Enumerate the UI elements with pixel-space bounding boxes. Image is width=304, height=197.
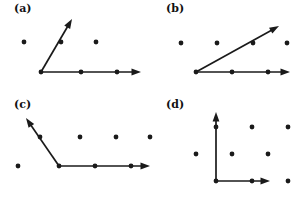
lattice-dot	[214, 125, 219, 130]
lattice-dot	[39, 70, 44, 75]
lattice-dot	[38, 135, 43, 140]
panel-a-canvas	[0, 0, 152, 98]
panel-b-canvas	[152, 0, 304, 98]
lattice-dot	[94, 40, 99, 45]
d-vertical-vector-head	[213, 112, 220, 122]
lattice-dot	[286, 125, 291, 130]
lattice-dot	[251, 41, 256, 46]
c-up-left-vector-head	[26, 118, 34, 128]
panel-d: (d)	[152, 96, 304, 194]
b-diagonal-vector-head	[269, 26, 279, 34]
d-horizontal-vector-head	[261, 178, 271, 185]
lattice-dot	[286, 179, 291, 184]
a-diagonal-vector-shaft	[41, 25, 68, 72]
panel-c: (c)	[0, 96, 152, 194]
lattice-dot	[59, 40, 64, 45]
lattice-dot	[214, 179, 219, 184]
c-up-left-vector-shaft	[30, 124, 59, 166]
panel-a: (a)	[0, 0, 152, 98]
c-horizontal-vector-head	[141, 163, 151, 170]
lattice-dot	[285, 41, 290, 46]
b-horizontal-vector-head	[281, 69, 291, 76]
lattice-dot	[22, 40, 27, 45]
panel-b: (b)	[152, 0, 304, 98]
lattice-vector-figure: (a) (b) (c) (d)	[0, 0, 304, 197]
lattice-dot	[250, 125, 255, 130]
lattice-dot	[194, 152, 199, 157]
lattice-dot	[115, 70, 120, 75]
lattice-dot	[114, 135, 119, 140]
lattice-dot	[179, 41, 184, 46]
lattice-dot	[93, 164, 98, 169]
lattice-dot	[79, 70, 84, 75]
lattice-dot	[215, 41, 220, 46]
lattice-dot	[230, 152, 235, 157]
lattice-dot	[266, 152, 271, 157]
a-diagonal-vector-head	[64, 19, 72, 29]
lattice-dot	[16, 164, 21, 169]
lattice-dot	[250, 179, 255, 184]
lattice-dot	[230, 70, 235, 75]
lattice-dot	[57, 164, 62, 169]
lattice-dot	[78, 135, 83, 140]
lattice-dot	[266, 70, 271, 75]
lattice-dot	[129, 164, 134, 169]
panel-c-canvas	[0, 96, 152, 194]
a-horizontal-vector-head	[132, 69, 142, 76]
lattice-dot	[194, 70, 199, 75]
b-diagonal-vector-shaft	[196, 30, 272, 72]
panel-d-canvas	[152, 96, 304, 194]
